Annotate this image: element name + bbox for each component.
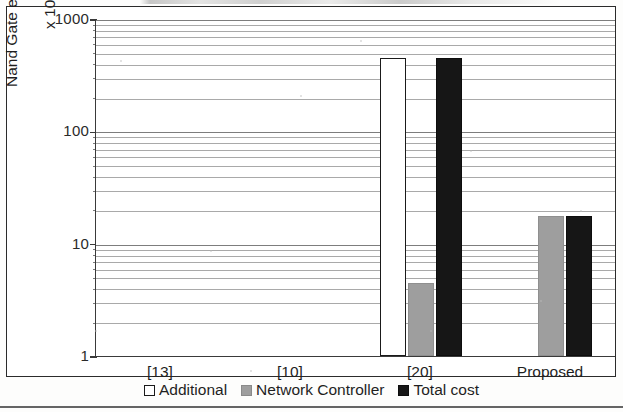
bar-network <box>408 283 434 356</box>
black-square-icon <box>398 385 409 396</box>
scanned-page: Nand Gate eq. area (Log.) x 10000 100010… <box>0 0 623 412</box>
legend-item-label: Total cost <box>413 381 478 399</box>
legend-item-label: Network Controller <box>256 381 384 399</box>
plot-area <box>95 20 615 357</box>
scan-speckle <box>120 60 122 62</box>
scan-speckle <box>210 250 212 252</box>
scan-speckle <box>95 330 97 332</box>
y-axis-tick-label: 1000 <box>41 10 89 27</box>
scan-speckle <box>470 150 472 152</box>
scan-speckle <box>540 300 542 302</box>
legend-item[interactable]: Network Controller <box>241 381 384 399</box>
y-axis-tick-label: 1 <box>41 347 89 364</box>
white-square-outline-icon <box>144 385 155 396</box>
y-axis-title: Nand Gate eq. area (Log.) <box>3 0 21 87</box>
scan-speckle <box>250 370 252 372</box>
bar-network <box>538 216 564 356</box>
y-axis-tick-label: 100 <box>41 122 89 139</box>
scan-speckle <box>300 95 302 97</box>
legend-item[interactable]: Additional <box>144 381 227 399</box>
bar-additional <box>380 58 406 356</box>
bar-total <box>566 216 592 356</box>
chart-frame: Nand Gate eq. area (Log.) x 10000 100010… <box>6 6 616 377</box>
x-axis-category-label: [13] <box>100 363 220 381</box>
legend-item-label: Additional <box>159 381 227 399</box>
scan-speckle <box>580 210 582 212</box>
scan-speckle <box>430 330 432 332</box>
bar-series-container <box>96 20 615 356</box>
y-axis-tick-label: 10 <box>41 235 89 252</box>
x-axis-category-label: [10] <box>230 363 350 381</box>
scan-artifact-strip <box>0 0 623 4</box>
gray-square-icon <box>241 385 252 396</box>
chart-legend: AdditionalNetwork ControllerTotal cost <box>0 381 623 399</box>
bar-total <box>436 58 462 356</box>
x-axis-category-label: Proposed <box>490 363 610 381</box>
legend-item[interactable]: Total cost <box>398 381 478 399</box>
page-bottom-rule <box>0 406 623 408</box>
x-axis-category-label: [20] <box>360 363 480 381</box>
scan-speckle <box>360 40 362 42</box>
